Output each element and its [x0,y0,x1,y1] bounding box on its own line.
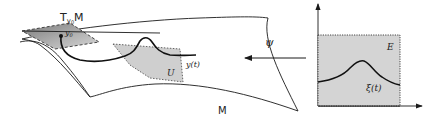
manifold-chart-diagram: Ty0M y0 U y(t) M ψ E ξ(t) [0,0,439,118]
tangent-plane-label: Ty0M [59,11,84,25]
chart-region-label: E [386,42,394,52]
map-psi-label: ψ [265,36,274,49]
patch-label: U [167,68,175,78]
manifold-label: M [218,105,227,116]
point-y0 [59,34,63,38]
diagram-canvas: Ty0M y0 U y(t) M ψ E ξ(t) [0,0,439,118]
chart-region-e: E [318,35,400,106]
curve-y-t-label: y(t) [185,60,200,69]
curve-xi-t-label: ξ(t) [366,83,382,93]
